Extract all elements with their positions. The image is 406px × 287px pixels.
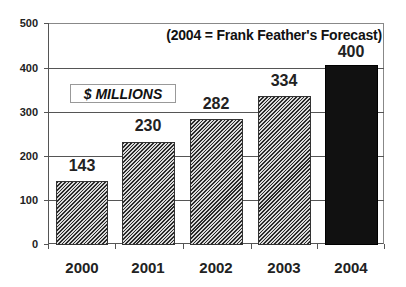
x-tick-label-2004: 2004 [321, 259, 381, 277]
y-tick [44, 23, 49, 24]
y-tick-label: 400 [0, 62, 38, 74]
x-tick [384, 244, 385, 249]
bar-chart: 500 400 300 200 100 0 143 230 282 334 40… [0, 0, 406, 287]
value-label-2004: 400 [321, 43, 381, 61]
bar-2003 [258, 96, 311, 245]
bar-2001 [122, 142, 175, 245]
x-tick-label-2002: 2002 [186, 259, 246, 277]
y-tick-label: 200 [0, 150, 38, 162]
value-label-2001: 230 [118, 117, 178, 135]
bar-2004-forecast [325, 65, 378, 245]
x-tick [115, 244, 116, 249]
x-tick [183, 244, 184, 249]
bar-2000 [56, 181, 108, 245]
y-tick [44, 156, 49, 157]
y-tick [44, 200, 49, 201]
y-tick-label: 500 [0, 17, 38, 29]
x-tick-label-2001: 2001 [118, 259, 178, 277]
y-tick [44, 68, 49, 69]
x-tick [48, 244, 49, 249]
bar-2002 [190, 119, 243, 245]
y-tick-label: 100 [0, 194, 38, 206]
x-tick [251, 244, 252, 249]
y-tick-label: 300 [0, 106, 38, 118]
value-label-2002: 282 [186, 95, 246, 113]
chart-title: (2004 = Frank Feather's Forecast) [166, 27, 382, 43]
x-tick-label-2000: 2000 [52, 259, 112, 277]
value-label-2000: 143 [52, 157, 112, 175]
x-tick-label-2003: 2003 [254, 259, 314, 277]
y-tick [44, 112, 49, 113]
value-label-2003: 334 [254, 72, 314, 90]
y-tick-label: 0 [0, 238, 38, 250]
x-tick [317, 244, 318, 249]
units-label: $ MILLIONS [70, 84, 176, 103]
